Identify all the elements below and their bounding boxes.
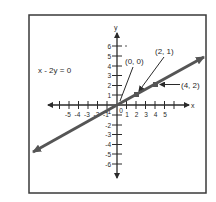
origin-label: 0 [119,107,123,114]
equation-label: x - 2y = 0 [38,66,72,75]
y-tick-label: -6 [105,161,111,168]
point-label-2-1: (2, 1) [155,47,174,56]
y-tick-label: 6 [107,43,111,50]
y-tick-label: -3 [105,131,111,138]
x-tick-label: 4 [154,111,158,118]
y-tick-label: 2 [107,82,111,89]
x-tick-label: 3 [144,111,148,118]
point-label-0-0: (0, 0) [125,57,144,66]
x-tick-label: -5 [65,111,71,118]
x-tick-label: 2 [135,111,139,118]
y-tick-label: 1 [107,92,111,99]
y-tick-label: 3 [107,72,111,79]
x-tick-label: 5 [163,111,167,118]
chart-figure: x -5 -4 -3 -2 -1 0 1 2 3 4 5 [0,0,216,202]
point-marker-4-2 [153,82,158,87]
y-tick-label: 4 [107,63,111,70]
x-tick-label: -4 [75,111,81,118]
point-label-4-2: (4, 2) [181,81,200,90]
y-axis-label: y [114,24,118,32]
x-tick-label: 1 [125,111,129,118]
y-tick-label: 5 [107,53,111,60]
x-axis-label: x [191,102,195,109]
point-marker-2-1 [134,92,139,97]
y-tick-label: -2 [105,122,111,129]
y-tick-label: -4 [105,141,111,148]
x-tick-label: -3 [84,111,90,118]
y-tick-label: -5 [105,151,111,158]
